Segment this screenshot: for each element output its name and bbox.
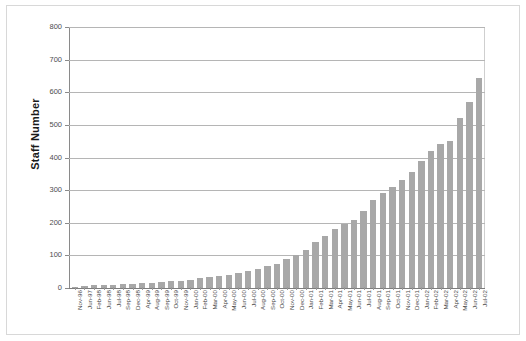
x-tick-label: Jul-02 xyxy=(482,290,488,307)
bar xyxy=(418,161,424,288)
x-tick-label: Feb-00 xyxy=(202,290,208,310)
x-tick-label: Apr-99 xyxy=(145,290,151,309)
y-tick-mark-0 xyxy=(65,288,69,289)
bar xyxy=(370,200,376,288)
bar xyxy=(409,172,415,288)
x-tick-label: Jan-02 xyxy=(424,290,430,309)
bar xyxy=(428,151,434,288)
x-tick-label: Dec-00 xyxy=(299,290,305,310)
y-tick-label-600: 600 xyxy=(29,89,62,97)
x-tick-label: Jun-02 xyxy=(472,290,478,309)
x-tick-label: Nov-99 xyxy=(183,290,189,310)
y-tick-mark-600 xyxy=(65,92,69,93)
bar xyxy=(457,118,463,288)
y-tick-label-500: 500 xyxy=(29,121,62,129)
x-tick-label: Oct-01 xyxy=(395,290,401,309)
bar xyxy=(437,144,443,288)
x-tick-label: Aug-99 xyxy=(154,290,160,310)
x-tick-label: Nov-00 xyxy=(289,290,295,310)
bar xyxy=(293,255,299,288)
bar xyxy=(351,220,357,289)
y-tick-mark-500 xyxy=(65,125,69,126)
x-tick-label: Jun-01 xyxy=(356,290,362,309)
x-tick-label: Apr-02 xyxy=(453,290,459,309)
x-tick-label: Sep-00 xyxy=(270,290,276,310)
x-tick-label: Feb-01 xyxy=(318,290,324,310)
y-tick-mark-800 xyxy=(65,27,69,28)
y-tick-label-0: 0 xyxy=(29,284,62,292)
x-tick-label: Jul-98 xyxy=(116,290,122,307)
bar xyxy=(332,229,338,288)
x-tick-label: Nov-96 xyxy=(77,290,83,310)
bar xyxy=(235,273,241,288)
x-tick-label: Nov-01 xyxy=(405,290,411,310)
y-tick-label-100: 100 xyxy=(29,252,62,260)
x-tick-label: Sep-01 xyxy=(385,290,391,310)
bar xyxy=(274,264,280,288)
chart-frame: Staff Number 0100200300400500600700800 N… xyxy=(6,5,520,335)
bar xyxy=(322,236,328,288)
x-tick-label: Jul-00 xyxy=(251,290,257,307)
x-tick-label: Mar-00 xyxy=(212,290,218,310)
x-tick-label: May-01 xyxy=(347,290,353,311)
x-tick-label: Sep-98 xyxy=(125,290,131,310)
x-tick-label: Mar-01 xyxy=(328,290,334,310)
y-tick-label-200: 200 xyxy=(29,219,62,227)
bar xyxy=(303,250,309,288)
y-tick-mark-200 xyxy=(65,223,69,224)
y-tick-label-400: 400 xyxy=(29,154,62,162)
x-tick-mark xyxy=(402,287,403,290)
bar xyxy=(255,269,261,288)
x-tick-label: Mar-02 xyxy=(443,290,449,310)
bar xyxy=(283,259,289,288)
x-tick-label: May-02 xyxy=(462,290,468,311)
x-tick-label: Apr-01 xyxy=(337,290,343,309)
bar-series xyxy=(70,27,484,288)
bar xyxy=(380,193,386,288)
y-tick-mark-300 xyxy=(65,190,69,191)
bar xyxy=(389,187,395,288)
chart-screenshot: Staff Number 0100200300400500600700800 N… xyxy=(0,0,526,341)
x-tick-label: Dec-01 xyxy=(414,290,420,310)
x-tick-label: Jun-97 xyxy=(87,290,93,309)
y-tick-label-800: 800 xyxy=(29,23,62,31)
x-tick-label: Feb-02 xyxy=(433,290,439,310)
y-axis-title: Staff Number xyxy=(29,44,41,224)
x-tick-label: Apr-00 xyxy=(222,290,228,309)
bar xyxy=(341,224,347,288)
y-tick-mark-700 xyxy=(65,60,69,61)
x-tick-label: Oct-99 xyxy=(173,290,179,309)
x-tick-label: Oct-00 xyxy=(279,290,285,309)
y-tick-label-300: 300 xyxy=(29,186,62,194)
bar xyxy=(476,78,482,288)
x-tick-label: Jun-00 xyxy=(241,290,247,309)
y-tick-mark-400 xyxy=(65,158,69,159)
x-tick-label: Aug-01 xyxy=(376,290,382,310)
x-tick-label: Jul-01 xyxy=(366,290,372,307)
x-tick-label: Aug-00 xyxy=(260,290,266,310)
bar xyxy=(312,242,318,288)
x-tick-label: May-00 xyxy=(231,290,237,311)
bar xyxy=(466,102,472,288)
bar xyxy=(399,180,405,288)
bar xyxy=(360,211,366,288)
x-tick-label: Jan-01 xyxy=(308,290,314,309)
x-tick-mark xyxy=(248,287,249,290)
x-tick-label: Sep-99 xyxy=(164,290,170,310)
x-tick-label: Feb-98 xyxy=(96,290,102,310)
x-axis-tick-labels: Nov-96Jun-97Feb-98Jun-98Jul-98Sep-98Dec-… xyxy=(69,290,485,340)
x-tick-label: Dec-98 xyxy=(135,290,141,310)
y-tick-mark-100 xyxy=(65,255,69,256)
bar xyxy=(264,266,270,288)
x-tick-mark xyxy=(325,287,326,290)
x-tick-label: Jun-98 xyxy=(106,290,112,309)
y-tick-label-700: 700 xyxy=(29,56,62,64)
plot-area: 0100200300400500600700800 xyxy=(69,27,485,288)
bar xyxy=(447,141,453,288)
bar xyxy=(245,271,251,288)
x-tick-label: Jan-00 xyxy=(193,290,199,309)
